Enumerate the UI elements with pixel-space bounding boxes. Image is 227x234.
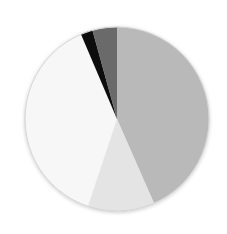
- pie-chart: [0, 0, 227, 234]
- pie-chart-canvas: [0, 0, 227, 234]
- pie-slices: [25, 27, 209, 211]
